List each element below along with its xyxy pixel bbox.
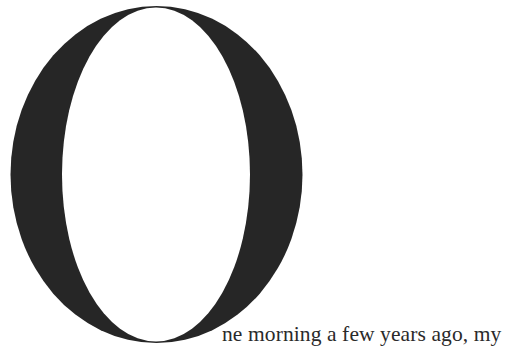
drop-cap-shape	[11, 6, 303, 343]
drop-cap-letter-o: O	[0, 0, 519, 353]
paragraph-first-line: ne morning a few years ago, my	[222, 322, 501, 346]
